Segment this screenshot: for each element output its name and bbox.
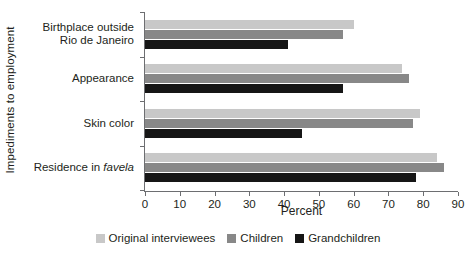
bar bbox=[145, 163, 444, 172]
legend-item-label: Children bbox=[240, 232, 283, 244]
bar bbox=[145, 129, 302, 138]
bar bbox=[145, 119, 413, 128]
x-axis-tick bbox=[388, 192, 389, 196]
y-axis-tick bbox=[140, 146, 145, 147]
x-axis-tick bbox=[145, 192, 146, 196]
y-axis-tick bbox=[140, 57, 145, 58]
x-axis-tick bbox=[215, 192, 216, 196]
y-axis-tick bbox=[140, 190, 145, 191]
y-axis-category-label: Appearance bbox=[16, 72, 134, 86]
bar bbox=[145, 153, 437, 162]
y-axis-category-labels: Birthplace outsideRio de JaneiroAppearan… bbox=[20, 12, 140, 190]
bar bbox=[145, 40, 288, 49]
legend-item[interactable]: Children bbox=[227, 232, 283, 244]
legend-item[interactable]: Original interviewees bbox=[96, 232, 216, 244]
y-axis-category-label: Birthplace outsideRio de Janeiro bbox=[16, 21, 134, 48]
x-axis-title: Percent bbox=[145, 204, 458, 218]
bar bbox=[145, 173, 416, 182]
y-axis-title-text: Impediments to employment bbox=[4, 27, 16, 174]
y-axis-tick bbox=[140, 12, 145, 13]
bar bbox=[145, 74, 409, 83]
chart-legend: Original intervieweesChildrenGrandchildr… bbox=[0, 232, 476, 244]
legend-item-label: Grandchildren bbox=[308, 232, 380, 244]
bar-chart: Impediments to employment Birthplace out… bbox=[0, 0, 476, 265]
x-axis-tick bbox=[249, 192, 250, 196]
x-axis-tick bbox=[284, 192, 285, 196]
x-axis-tick bbox=[458, 192, 459, 196]
y-axis-tick bbox=[140, 101, 145, 102]
legend-item[interactable]: Grandchildren bbox=[295, 232, 380, 244]
y-axis-category-label: Residence in favela bbox=[16, 161, 134, 175]
legend-item-label: Original interviewees bbox=[109, 232, 216, 244]
legend-swatch-icon bbox=[227, 234, 236, 243]
x-axis-tick bbox=[423, 192, 424, 196]
bar bbox=[145, 109, 420, 118]
bar bbox=[145, 20, 354, 29]
x-axis-tick bbox=[180, 192, 181, 196]
x-axis-tick bbox=[354, 192, 355, 196]
plot-area: 0102030405060708090 bbox=[145, 12, 458, 190]
bar bbox=[145, 64, 402, 73]
x-axis-tick bbox=[319, 192, 320, 196]
legend-swatch-icon bbox=[96, 234, 105, 243]
x-axis-spine bbox=[144, 191, 458, 192]
bar bbox=[145, 30, 343, 39]
bar bbox=[145, 84, 343, 93]
y-axis-category-label: Skin color bbox=[16, 117, 134, 131]
legend-swatch-icon bbox=[295, 234, 304, 243]
